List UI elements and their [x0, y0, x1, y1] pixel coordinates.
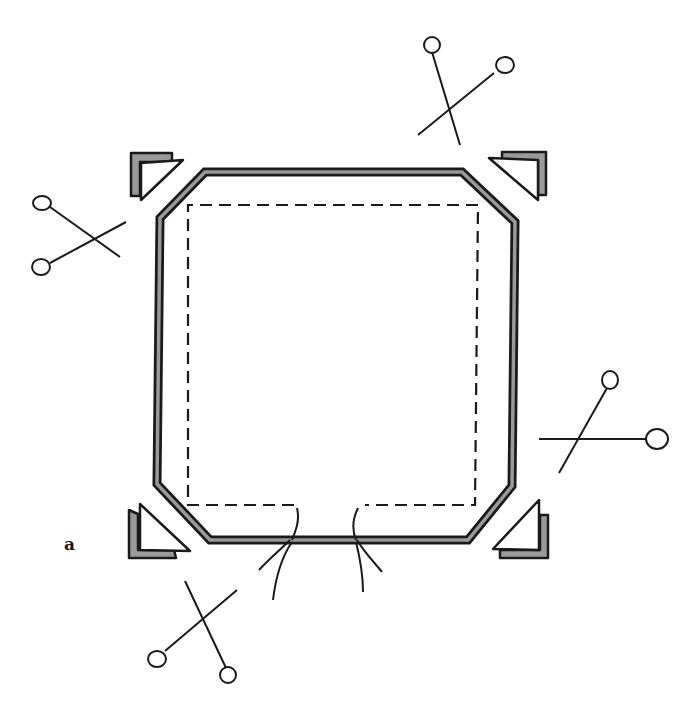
thread-tails [259, 508, 382, 600]
pin-right [539, 371, 668, 473]
corner-clip-top-left [131, 153, 183, 200]
corner-clip-bottom-right [493, 500, 548, 558]
fabric-outline [157, 172, 515, 540]
pin-left [32, 196, 126, 275]
corner-clip-top-right [489, 152, 546, 200]
pin-top-right [418, 37, 514, 145]
figure-label: a [64, 534, 75, 554]
stitch-line [188, 205, 478, 505]
sewing-diagram [0, 0, 689, 704]
pin-bottom-left [148, 581, 237, 683]
